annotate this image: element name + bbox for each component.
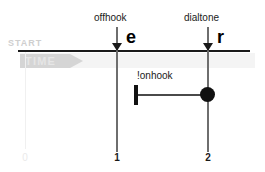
condition-segment-line bbox=[136, 94, 208, 96]
condition-end-marker bbox=[200, 87, 215, 102]
tick-label-0: 0 bbox=[19, 152, 31, 163]
condition-label-onhook: !onhook bbox=[137, 70, 173, 81]
event-letter-e: e bbox=[126, 28, 136, 46]
timing-diagram: TIME START offhook dialtone e r !onhook … bbox=[0, 0, 265, 172]
start-label: START bbox=[8, 38, 42, 48]
arrow-down-icon-dialtone bbox=[203, 43, 213, 51]
event-letter-r: r bbox=[217, 28, 224, 46]
event-label-offhook: offhook bbox=[94, 12, 127, 23]
arrow-down-icon-offhook bbox=[112, 43, 122, 51]
event-label-dialtone: dialtone bbox=[184, 12, 219, 23]
tick-label-1: 1 bbox=[111, 152, 123, 163]
time-axis-line bbox=[18, 50, 250, 52]
lifeline-tick-0 bbox=[25, 52, 26, 149]
condition-start-marker bbox=[134, 85, 138, 105]
time-axis-label: TIME bbox=[25, 54, 56, 68]
tick-label-2: 2 bbox=[202, 152, 214, 163]
